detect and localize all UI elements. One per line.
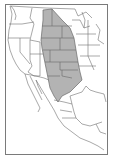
map-canvas (0, 0, 113, 158)
range-map (0, 0, 113, 158)
